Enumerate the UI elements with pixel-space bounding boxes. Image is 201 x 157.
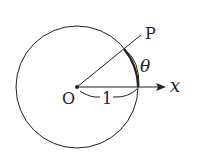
label-p: P: [145, 24, 156, 43]
unit-circle-diagram: P O θ x 1: [0, 0, 201, 157]
origin-dot: [75, 85, 79, 89]
label-radius: 1: [102, 89, 112, 108]
label-x: x: [170, 75, 180, 96]
arc-theta: [124, 49, 138, 87]
label-theta: θ: [140, 56, 150, 76]
label-o: O: [62, 89, 75, 108]
